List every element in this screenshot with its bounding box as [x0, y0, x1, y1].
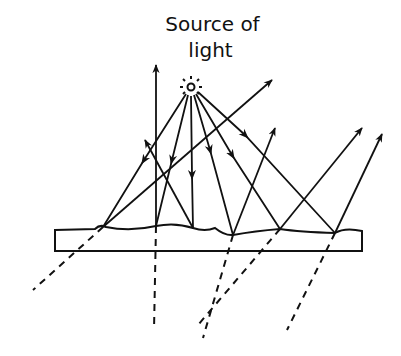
reflected-rays	[103, 65, 382, 235]
sun-icon	[180, 76, 202, 94]
refracted-rays	[33, 226, 335, 338]
diffuse-reflection-diagram	[0, 0, 401, 356]
incident-rays	[103, 92, 335, 235]
